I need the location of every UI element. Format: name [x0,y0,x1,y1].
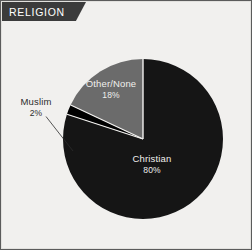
pie-label-other-none-percent: 18% [71,90,151,100]
pie-label-muslim: Muslim 2% [5,96,67,118]
section-header-banner: RELIGION [2,2,86,21]
pie-label-muslim-percent: 2% [5,108,67,118]
pie-label-muslim-text: Muslim [5,96,67,107]
page-title: RELIGION [2,6,65,18]
pie-label-other-none-text: Other/None [71,78,151,89]
pie-label-other-none: Other/None 18% [71,78,151,100]
pie-chart-svg [1,1,252,250]
pie-chart [1,1,252,250]
pie-label-christian-text: Christian [112,153,192,164]
pie-label-christian-percent: 80% [112,165,192,175]
pie-label-christian: Christian 80% [112,153,192,175]
religion-chart-panel: RELIGION Other/None 18% Christian 80% Mu… [0,0,252,250]
